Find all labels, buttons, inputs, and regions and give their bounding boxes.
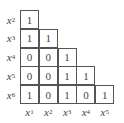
column-label-sub: 3 (68, 108, 72, 116)
row-label-sub: 6 (12, 91, 16, 99)
matrix-cell: 0 (20, 48, 39, 67)
matrix-cell: 1 (39, 29, 58, 48)
row-label: x5 (3, 66, 19, 85)
matrix-cell: 1 (20, 10, 39, 29)
matrix-cell: 0 (39, 48, 58, 67)
row-label-sub: 4 (12, 53, 16, 61)
matrix-cell: 1 (20, 85, 39, 104)
column-label: x3 (58, 105, 77, 119)
column-label-sub: 4 (87, 108, 91, 116)
row-label: x2 (3, 10, 19, 29)
matrix-cell: 0 (76, 85, 95, 104)
matrix-cell: 1 (58, 48, 77, 67)
row-label-sub: 5 (12, 72, 16, 80)
column-label: x5 (95, 105, 114, 119)
column-label-sub: 5 (105, 108, 109, 116)
row-label: x3 (3, 29, 19, 48)
column-label: x4 (76, 105, 95, 119)
column-label: x1 (20, 105, 39, 119)
matrix-cell: 1 (95, 85, 114, 104)
column-label-sub: 2 (49, 108, 53, 116)
row-label-sub: 2 (12, 16, 16, 24)
matrix-cell: 0 (20, 66, 39, 85)
row-label-sub: 3 (12, 34, 16, 42)
matrix-cell: 0 (39, 66, 58, 85)
matrix-cell: 1 (58, 85, 77, 104)
matrix-cell: 1 (58, 66, 77, 85)
column-label: x2 (39, 105, 58, 119)
row-label: x4 (3, 48, 19, 67)
matrix-cell: 0 (39, 85, 58, 104)
column-label-sub: 1 (30, 108, 34, 116)
row-label: x6 (3, 85, 19, 104)
matrix-cell: 1 (20, 29, 39, 48)
matrix-cell: 1 (76, 66, 95, 85)
